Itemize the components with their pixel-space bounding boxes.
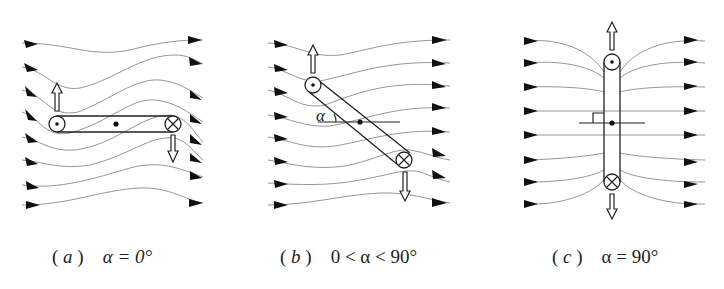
panel-b: α	[268, 36, 450, 209]
coil-a	[49, 116, 181, 132]
panel-c	[524, 22, 705, 219]
pivot-dot	[113, 121, 118, 126]
field-arrowheads-right	[432, 36, 447, 207]
field-arrowheads-right	[188, 36, 203, 207]
force-down-arrow-icon	[607, 194, 617, 219]
panel-condition: α = 90°	[602, 246, 659, 267]
coil-c	[579, 54, 645, 190]
force-up-arrow-icon	[607, 22, 617, 50]
panel-condition: α = 0°	[103, 246, 152, 267]
coil-b: α	[305, 77, 412, 168]
pivot-dot	[609, 120, 614, 125]
pivot-dot	[357, 119, 362, 124]
panel-label: a	[63, 246, 73, 267]
caption-c: ( c ) α = 90°	[552, 246, 658, 268]
angle-alpha-label: α	[316, 106, 326, 125]
angle-arc	[334, 114, 336, 122]
panel-a	[22, 36, 203, 209]
caption-b: ( b ) 0 < α < 90°	[280, 246, 417, 268]
field-arrowheads-left	[24, 40, 40, 209]
force-up-arrow-icon	[52, 83, 62, 111]
right-angle-marker	[593, 113, 604, 123]
panel-label: b	[291, 246, 301, 267]
force-up-arrow-icon	[308, 45, 318, 73]
force-down-arrow-icon	[168, 135, 178, 162]
panel-condition: 0 < α < 90°	[331, 246, 417, 267]
caption-a: ( a ) α = 0°	[52, 246, 152, 268]
force-down-arrow-icon	[400, 172, 410, 201]
field-arrowheads-left	[274, 40, 288, 209]
field-arrowheads-left	[524, 37, 538, 208]
panel-label: c	[563, 246, 571, 267]
